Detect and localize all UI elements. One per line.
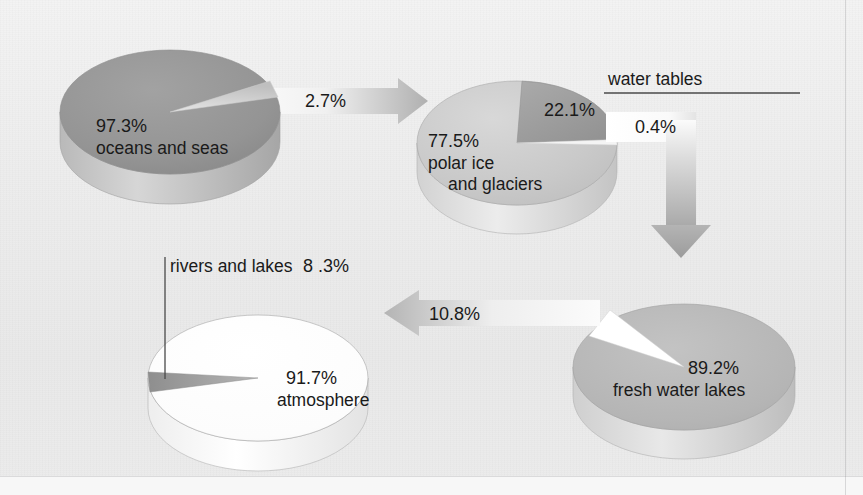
arrow-label-2-7-percent: 2.7% (305, 91, 346, 111)
pie4-percent-label: 91.7% (286, 368, 337, 388)
pie2-category-label-line1: polar ice (428, 153, 494, 173)
pie2-percent-label: 77.5% (428, 131, 479, 151)
pie-chart-polar-ice-and-glaciers: 77.5% polar ice and glaciers 22.1% (417, 81, 617, 234)
pie-chart-fresh-water-lakes: 89.2% fresh water lakes (573, 304, 795, 459)
figure-canvas: 97.3% oceans and seas 2.7% 77.5% polar i… (0, 0, 863, 495)
pie3-percent-label: 89.2% (688, 358, 739, 378)
pie1-percent-label: 97.3% (96, 116, 147, 136)
callout-rivers-and-lakes-label: rivers and lakes (170, 256, 293, 276)
pie2-slice-percent-label: 22.1% (544, 100, 595, 120)
callout-water-tables: water tables (604, 69, 800, 93)
pie1-category-label: oceans and seas (96, 138, 229, 158)
flow-arrow-10-8-percent (384, 290, 600, 336)
arrow-label-0-4-percent: 0.4% (635, 117, 676, 137)
pie-chart-oceans-and-seas: 97.3% oceans and seas (60, 50, 280, 204)
pie-chart-atmosphere: 91.7% atmosphere (148, 315, 369, 471)
arrow-left-shape (384, 290, 600, 336)
callout-rivers-and-lakes-percent: 8 .3% (303, 256, 349, 276)
arrow-label-10-8-percent: 10.8% (429, 304, 480, 324)
pie2-category-label-line2: and glaciers (448, 174, 543, 194)
callout-water-tables-label: water tables (607, 69, 703, 89)
water-distribution-diagram: 97.3% oceans and seas 2.7% 77.5% polar i… (0, 0, 863, 495)
arrow-down-head (651, 225, 711, 258)
pie3-category-label: fresh water lakes (613, 380, 746, 400)
pie4-category-label: atmosphere (277, 390, 369, 410)
